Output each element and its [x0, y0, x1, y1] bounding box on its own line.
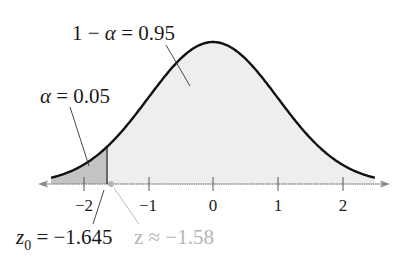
- tick-label-0: 0: [209, 196, 218, 215]
- tick-label-neg1: −1: [139, 196, 157, 215]
- tick-label-2: 2: [339, 196, 348, 215]
- leader-rejection: [70, 107, 89, 166]
- acceptance-area-label: 1 − α = 0.95: [72, 21, 175, 45]
- test-statistic-label: z ≈ −1.58: [134, 225, 214, 249]
- tick-label-1: 1: [274, 196, 283, 215]
- leader-z0: [93, 190, 104, 224]
- rejection-region: [51, 147, 106, 184]
- critical-value-label: z0 = −1.645: [15, 225, 113, 253]
- tick-label-neg2: −2: [75, 196, 93, 215]
- rejection-area-label: α = 0.05: [40, 84, 110, 108]
- test-statistic-point: [108, 181, 114, 187]
- acceptance-region: [106, 42, 374, 184]
- axis-arrow-right-icon: [380, 181, 390, 188]
- normal-distribution-diagram: −2 −1 0 1 2 1 − α = 0.95 α = 0.05 z0 = −…: [0, 0, 402, 261]
- leader-z-stat: [114, 188, 139, 224]
